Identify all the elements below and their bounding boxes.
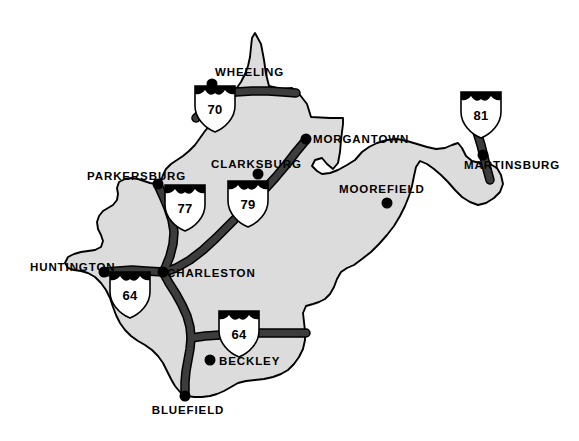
city-label-bluefield: BLUEFIELD — [152, 404, 225, 416]
city-dot-beckley[interactable] — [205, 355, 216, 366]
shield-i79-number: 79 — [240, 197, 255, 212]
shield-i70-number: 70 — [207, 102, 222, 117]
city-label-martinsburg: MARTINSBURG — [464, 159, 560, 171]
city-dot-morgantown[interactable] — [301, 134, 312, 145]
west-virginia-highway-map: 70 81 77 79 64 64 — [0, 0, 579, 441]
city-label-clarksburg: CLARKSBURG — [211, 158, 302, 170]
city-dot-moorefield[interactable] — [382, 198, 393, 209]
city-label-wheeling: WHEELING — [215, 66, 284, 78]
city-label-beckley: BECKLEY — [219, 355, 280, 367]
shield-i81[interactable]: 81 — [461, 92, 501, 138]
map-canvas: 70 81 77 79 64 64 — [0, 0, 579, 441]
city-label-huntington: HUNTINGTON — [30, 261, 115, 273]
shield-i77-number: 77 — [177, 201, 192, 216]
city-label-moorefield: MOOREFIELD — [339, 183, 425, 195]
shield-i81-number: 81 — [473, 108, 488, 123]
city-dot-clarksburg[interactable] — [253, 169, 264, 180]
city-label-parkersburg: PARKERSBURG — [87, 170, 186, 182]
city-label-morgantown: MORGANTOWN — [313, 133, 409, 145]
city-label-charleston: CHARLESTON — [167, 267, 256, 279]
city-dot-wheeling[interactable] — [207, 79, 218, 90]
shield-i64-east-number: 64 — [231, 327, 247, 342]
shield-i64-west-number: 64 — [122, 288, 138, 303]
city-dot-bluefield[interactable] — [180, 391, 191, 402]
